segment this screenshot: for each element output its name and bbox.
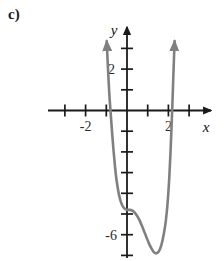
y-tick-label--6: -6 — [105, 228, 117, 243]
quartic-curve-path — [107, 41, 175, 253]
y-axis: 2 -6 y — [105, 22, 133, 258]
plotted-curve — [107, 41, 175, 253]
graph-canvas: -2 2 x 2 -6 y — [0, 0, 224, 261]
figure-container: c) -2 2 x — [0, 0, 224, 261]
x-axis-label: x — [202, 119, 210, 135]
y-axis-label: y — [109, 22, 118, 38]
x-tick-label--2: -2 — [80, 119, 92, 134]
